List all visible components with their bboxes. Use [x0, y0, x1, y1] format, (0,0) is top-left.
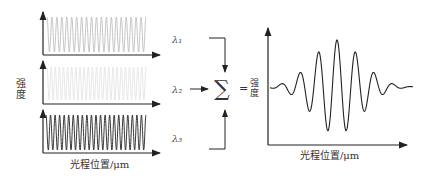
equals-sign: = [239, 82, 248, 95]
sum-symbol: ∑ [214, 76, 230, 101]
left-x-axis-label: 光程位置/μm [70, 160, 129, 170]
top-wave [47, 17, 146, 52]
lambda-2-label: λ₂ [172, 84, 182, 95]
result-y-axis-label: 强度 [249, 78, 258, 98]
left-y-axis-label: 强度 [14, 78, 24, 100]
result-panel-axes [268, 28, 407, 145]
lambda-3-label: λ₃ [172, 133, 182, 144]
result-x-axis-label: 光程位置/μm [300, 151, 359, 161]
interferogram-wave [270, 40, 413, 131]
bottom-wave [46, 115, 146, 150]
lambda-1-label: λ₁ [172, 34, 182, 45]
middle-wave [47, 67, 146, 100]
